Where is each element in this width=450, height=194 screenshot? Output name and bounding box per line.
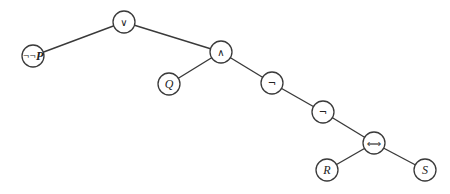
node-label: ∧ xyxy=(217,47,224,58)
tree-node: ¬ xyxy=(312,101,334,123)
node-label: ¬ xyxy=(268,78,276,89)
tree-node: Q xyxy=(158,73,180,95)
tree-node: ⟺ xyxy=(363,132,385,154)
node-label: ⟺ xyxy=(367,138,381,149)
node-label: R xyxy=(322,163,331,177)
tree-node: ¬ xyxy=(261,72,283,94)
tree-node: ∧ xyxy=(210,41,232,63)
tree-node: ¬¬P xyxy=(22,45,44,67)
tree-node: ∨ xyxy=(113,11,135,33)
syntax-tree-diagram: ∨¬¬P∧Q¬¬⟺RS xyxy=(0,0,450,194)
tree-edge xyxy=(33,22,124,56)
node-label: ¬ xyxy=(319,107,327,118)
node-label: ∨ xyxy=(120,17,127,28)
tree-node: S xyxy=(414,159,436,181)
node-label: S xyxy=(422,163,428,177)
tree-node: R xyxy=(316,159,338,181)
node-label: Q xyxy=(165,77,174,91)
tree-edge xyxy=(124,22,221,52)
